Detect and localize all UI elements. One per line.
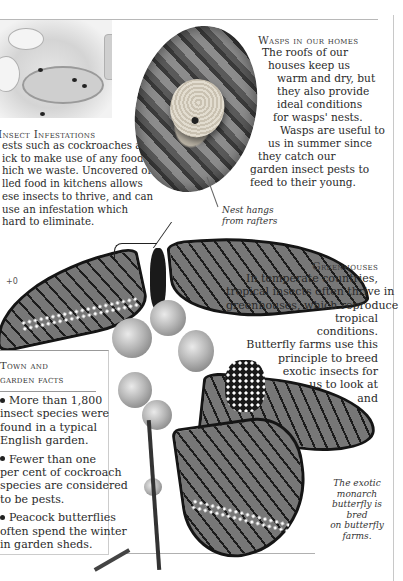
flower-icon (150, 300, 186, 336)
facts-title-line: Town and (0, 359, 64, 373)
caption-line: farms. (322, 531, 392, 542)
text-line: principle to breed (226, 352, 378, 365)
teacup-icon (8, 28, 44, 50)
facts-title: Town and garden facts (0, 359, 64, 387)
bullet-icon (0, 398, 5, 403)
jar-icon (104, 34, 112, 80)
text-line: for wasps' nests. (273, 111, 400, 124)
fact-item: Peacock butterflies often spend the wint… (0, 511, 106, 551)
facts-title-rule (0, 391, 96, 392)
text-line: The roofs of our (262, 46, 400, 59)
text-line: and (226, 392, 378, 405)
text-line: ests such as cockroaches are (2, 140, 135, 153)
insect-infestations-heading: Insect Infestations (0, 128, 135, 140)
wasps-body: The roofs of our houses keep us warm and… (250, 46, 400, 189)
monarch-caption: The exotic monarch butterfly is bred on … (322, 478, 392, 541)
text-line: lled food in kitchens allows (2, 178, 135, 191)
text-line: hard to eliminate. (2, 216, 135, 229)
cockroach-icon (72, 78, 77, 82)
text-line: species are considered (0, 479, 106, 492)
caption-line: monarch (322, 489, 392, 500)
text-line: garden insect pests to (250, 163, 400, 176)
wasps-section: Wasps in our homes The roofs of our hous… (250, 34, 400, 189)
text-line: hich we waste. Uncovered or (2, 165, 135, 178)
text-line: they also provide (277, 85, 400, 98)
text-line: tropical insects often thrive in (226, 285, 378, 298)
caption-line: from rafters (222, 216, 277, 227)
plate-icon (22, 66, 104, 104)
caption-line: butterfly is bred (322, 499, 392, 520)
teacup-icon (0, 56, 20, 92)
cockroach-icon (82, 84, 87, 88)
greenhouses-body: In temperate countries, tropical insects… (226, 272, 378, 405)
town-garden-facts-box: Town and garden facts More than 1,800 in… (0, 350, 109, 555)
text-line: Butterfly farms use this (226, 338, 378, 351)
bullet-icon (0, 515, 5, 520)
text-line: they catch our (258, 150, 400, 163)
bullet-icon (0, 456, 5, 461)
text-line: ideal conditions (277, 98, 400, 111)
kitchen-table-photo (0, 20, 112, 118)
text-line: conditions. (226, 325, 378, 338)
greenhouses-heading: Greenhouses (226, 260, 378, 272)
text-line: greenhouses, which reproduce (226, 299, 378, 312)
text-line: exotic insects for (226, 365, 378, 378)
text-line: ick to make use of any food (2, 153, 135, 166)
text-line: More than 1,800 (9, 394, 102, 407)
insect-infestations-body: ests such as cockroaches are ick to make… (0, 140, 135, 229)
page-reference: +0 (6, 277, 18, 286)
text-line: Fewer than one (9, 453, 96, 466)
wasp-nest-icon (165, 74, 230, 142)
text-line: Wasps are useful to (280, 124, 400, 137)
facts-list: More than 1,800 insect species were foun… (0, 394, 106, 556)
flower-icon (112, 318, 152, 358)
caption-line: on butterfly (322, 520, 392, 531)
flower-icon (178, 330, 214, 372)
fact-item: More than 1,800 insect species were foun… (0, 394, 106, 448)
text-line: In temperate countries, (226, 272, 378, 285)
text-line: English garden. (0, 434, 106, 447)
facts-title-line: garden facts (0, 373, 64, 387)
greenhouses-section: Greenhouses In temperate countries, trop… (226, 260, 378, 405)
text-line: Peacock butterflies (9, 511, 116, 524)
text-line: us in summer since (268, 137, 400, 150)
caption-line: Nest hangs (222, 205, 277, 216)
cockroach-icon (38, 68, 43, 72)
text-line: often spend the winter (0, 525, 106, 538)
text-line: found in a typical (0, 421, 106, 434)
text-line: ese insects to thrive, and can (2, 191, 135, 204)
wasps-heading: Wasps in our homes (258, 34, 400, 46)
text-line: feed to their young. (250, 176, 400, 189)
text-line: in garden sheds. (0, 538, 106, 551)
cockroach-icon (40, 112, 45, 116)
text-line: to be pests. (0, 493, 106, 506)
nest-caption: Nest hangs from rafters (222, 205, 277, 226)
text-line: use an infestation which (2, 204, 135, 217)
text-line: warm and dry, but (277, 72, 400, 85)
fact-item: Fewer than one per cent of cockroach spe… (0, 453, 106, 507)
text-line: insect species were (0, 407, 106, 420)
insect-infestations-section: Insect Infestations ests such as cockroa… (0, 128, 135, 229)
nest-entrance-icon (191, 116, 199, 124)
text-line: houses keep us (268, 59, 400, 72)
caption-line: The exotic (322, 478, 392, 489)
antenna-icon (114, 243, 157, 258)
text-line: per cent of cockroach (0, 466, 106, 479)
text-line: tropical (226, 312, 378, 325)
text-line: us to look at (226, 378, 378, 391)
